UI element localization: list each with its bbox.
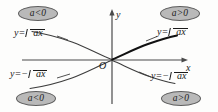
y-axis-label: y: [116, 10, 120, 20]
curve-upper-right-emphasized: [112, 36, 177, 60]
equation-label-upper-right: y=ax: [157, 27, 187, 37]
equation-lhs: y=−: [10, 68, 28, 79]
leader-line-bottom-right: [139, 72, 151, 77]
radicand: ax: [32, 28, 43, 38]
radical-sign-icon: ax: [29, 69, 46, 79]
leader-line-top-right: [146, 37, 157, 42]
equation-label-lower-right: y=−ax: [151, 71, 187, 81]
equation-label-lower-left: y=−ax: [10, 69, 46, 79]
function-graph-figure: y x O a<0 a>0 a<0 a>0 y=ax y=ax y=−ax y=…: [0, 0, 218, 112]
radicand: ax: [176, 71, 187, 81]
badge-label: a<0: [30, 9, 47, 19]
radical-sign-icon: ax: [170, 71, 187, 81]
origin-label: O: [99, 61, 106, 71]
equation-lhs: y=: [14, 27, 25, 38]
badge-a-greater-than-zero-top-right: a>0: [160, 6, 200, 21]
radicand: ax: [175, 27, 186, 37]
badge-label: a<0: [28, 94, 45, 104]
badge-a-greater-than-zero-bottom-right: a>0: [161, 91, 201, 106]
equation-label-upper-left: y=ax: [14, 28, 44, 38]
badge-label: a>0: [172, 9, 189, 19]
badge-label: a>0: [173, 94, 190, 104]
y-axis-arrow-icon: [109, 9, 114, 16]
leader-line-bottom-left: [57, 74, 70, 78]
equation-lhs: y=: [157, 26, 168, 37]
equation-lhs: y=−: [151, 70, 169, 81]
badge-a-less-than-zero-top-left: a<0: [18, 6, 58, 21]
curve-upper-left: [32, 32, 112, 60]
radical-sign-icon: ax: [26, 28, 43, 38]
radical-sign-icon: ax: [169, 27, 186, 37]
badge-a-less-than-zero-bottom-left: a<0: [16, 91, 56, 106]
radicand: ax: [35, 69, 46, 79]
